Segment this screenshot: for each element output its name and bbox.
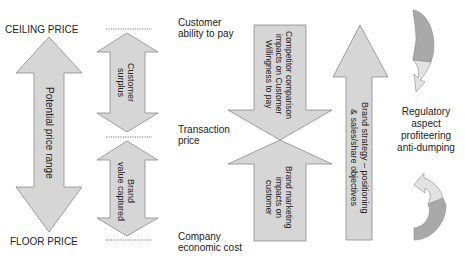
price-range-label: Potential price range: [43, 80, 55, 185]
regulatory-line4: anti-dumping: [388, 142, 464, 154]
brand-strategy-label: Brand strategy – positioning & sales/sha…: [348, 88, 370, 228]
regulatory-line3: profiteering: [388, 130, 464, 142]
customer-ability-line1: Customer: [178, 17, 234, 28]
company-cost-label: Company economic cost: [178, 231, 242, 253]
brand-value-line1: Brand: [126, 179, 136, 203]
transaction-price-line2: price: [178, 135, 230, 146]
curved-arrow-down-icon: [413, 10, 434, 92]
brand-strategy-line1: Brand strategy – positioning: [360, 102, 370, 214]
curved-arrow-up-icon: [414, 173, 446, 240]
customer-surplus-line1: Customer: [126, 63, 136, 102]
customer-ability-label: Customer ability to pay: [178, 17, 234, 39]
company-cost-line2: economic cost: [178, 242, 242, 253]
brand-value-line2: value captured: [116, 162, 126, 221]
company-cost-line1: Company: [178, 231, 242, 242]
regulatory-label: Regulatory aspect profiteering anti-dump…: [388, 106, 464, 154]
brand-value-label: Brand value captured: [116, 162, 136, 220]
competitor-line2: impacts on Customer: [274, 34, 284, 114]
competitor-line1: Competitor comparison: [284, 31, 294, 119]
regulatory-line2: aspect: [388, 118, 464, 130]
transaction-price-label: Transaction price: [178, 124, 230, 146]
customer-surplus-line2: surplus: [116, 68, 126, 97]
competitor-line3: Willingness to pay: [264, 40, 274, 109]
floor-price-label: FLOOR PRICE: [10, 236, 78, 247]
transaction-price-line1: Transaction: [178, 124, 230, 135]
competitor-label: Competitor comparison impacts on Custome…: [264, 27, 294, 122]
customer-ability-line2: ability to pay: [178, 28, 234, 39]
ceiling-price-label: CEILING PRICE: [5, 24, 78, 35]
brand-marketing-label: Brand marketing impacts on customer: [264, 165, 294, 230]
brand-marketing-line2: impacts on: [274, 177, 284, 218]
customer-surplus-label: Customer surplus: [116, 58, 136, 108]
brand-marketing-line1: Brand marketing: [284, 166, 294, 228]
regulatory-line1: Regulatory: [388, 106, 464, 118]
brand-marketing-line3: customer: [264, 180, 274, 215]
brand-strategy-line2: & sales/share objectives: [349, 109, 359, 206]
